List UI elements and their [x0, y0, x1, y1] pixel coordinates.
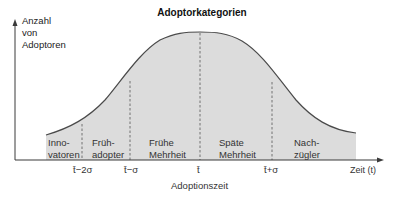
- category-late-majority: Späte Mehrheit: [219, 137, 256, 161]
- y-axis-arrow-icon: [13, 19, 18, 26]
- y-axis-label: Anzahl von Adoptoren: [22, 15, 66, 51]
- category-label-line: zügler: [294, 149, 320, 161]
- category-label-line: Inno-: [48, 137, 80, 149]
- category-label-line: Frühe: [149, 137, 186, 149]
- category-label-line: Mehrheit: [149, 149, 186, 161]
- category-early-adopters: Früh- adopter: [92, 137, 124, 161]
- category-label-line: Späte: [219, 137, 256, 149]
- category-innovators: Inno- vatoren: [48, 137, 80, 161]
- x-axis-label: Adoptionszeit: [171, 180, 228, 191]
- category-label-line: Früh-: [92, 137, 124, 149]
- x-axis-end-label: Zeit (t): [350, 165, 376, 175]
- category-label-line: Mehrheit: [219, 149, 256, 161]
- category-label-line: vatoren: [48, 149, 80, 161]
- y-axis-label-line: Adoptoren: [22, 39, 66, 51]
- category-laggards: Nach- zügler: [294, 137, 320, 161]
- y-axis-label-line: Anzahl: [22, 15, 66, 27]
- category-early-majority: Frühe Mehrheit: [149, 137, 186, 161]
- y-axis-label-line: von: [22, 27, 66, 39]
- category-label-line: Nach-: [294, 137, 320, 149]
- tick-t-plus-sigma: t̄+σ: [264, 164, 278, 175]
- tick-t-mean: t̄: [197, 164, 200, 175]
- tick-t-minus-sigma: t̄−σ: [124, 164, 138, 175]
- adopter-categories-diagram: Adoptorkategorien Anzahl von Adoptoren I…: [0, 0, 396, 200]
- tick-t-minus-2sigma: t̄−2σ: [73, 164, 92, 175]
- category-label-line: adopter: [92, 149, 124, 161]
- x-axis-arrow-icon: [377, 158, 384, 163]
